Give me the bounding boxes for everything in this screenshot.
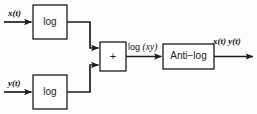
- signal-label-intermediate: log (xy): [128, 43, 157, 53]
- wire-logtop-to-summer: [67, 22, 99, 48]
- block-log-top-label: log: [33, 17, 67, 27]
- signal-intermediate-upright: log: [128, 42, 140, 52]
- signal-intermediate-italic: (xy): [143, 42, 158, 52]
- block-log-bottom-label: log: [33, 87, 67, 97]
- signal-label-input-x: x(t): [8, 9, 21, 18]
- block-antilog-label: Anti−log: [163, 51, 214, 61]
- block-summer-label: +: [100, 51, 126, 62]
- wire-logbot-to-summer: [67, 65, 99, 92]
- block-diagram: log log + Anti−log x(t) y(t) log (xy) x(…: [0, 0, 257, 114]
- signal-label-input-y: y(t): [8, 79, 21, 88]
- signal-label-output: x(t) y(t): [213, 37, 241, 46]
